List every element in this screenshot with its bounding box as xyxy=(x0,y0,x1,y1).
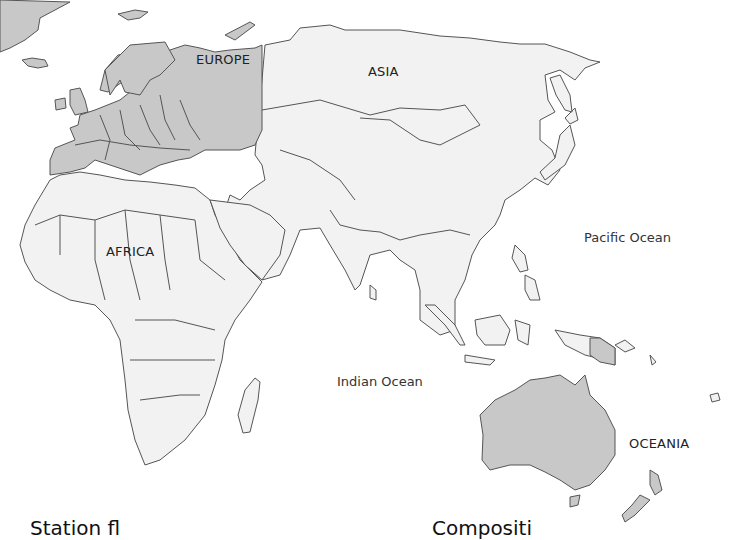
footer-right-text: Compositi xyxy=(432,516,532,540)
label-africa: AFRICA xyxy=(106,244,154,259)
asia-shape xyxy=(210,25,600,335)
footer-left-text: Station fl xyxy=(30,516,120,540)
label-europe: EUROPE xyxy=(196,52,250,67)
uk-shape xyxy=(70,88,88,115)
label-oceania: OCEANIA xyxy=(629,436,689,451)
label-asia: ASIA xyxy=(368,64,399,79)
label-indian-ocean: Indian Ocean xyxy=(337,374,423,389)
madagascar-shape xyxy=(238,378,260,433)
greenland-shape xyxy=(0,0,70,52)
iceland-shape xyxy=(22,58,48,68)
new-zealand-shape xyxy=(650,470,662,495)
australia-shape xyxy=(480,375,615,490)
label-pacific-ocean: Pacific Ocean xyxy=(584,230,671,245)
